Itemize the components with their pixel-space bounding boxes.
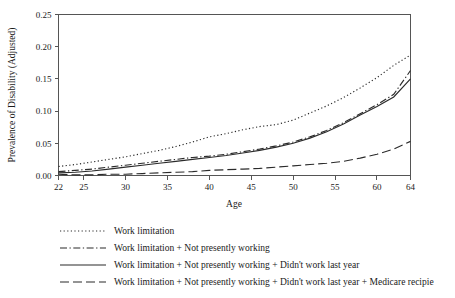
y-tick-label: 0.05 [36,139,52,149]
x-axis-title: Age [226,199,242,209]
legend-item: Work limitation + Not presently working [60,239,455,256]
x-tick-label: 50 [289,182,299,192]
chart-figure: 0.000.050.100.150.200.25 222530354045505… [0,0,455,298]
legend-label-not-presently-working: Work limitation + Not presently working [114,243,270,253]
x-tick-label: 45 [247,182,257,192]
series-line [59,71,411,172]
x-tick-label: 55 [331,182,341,192]
legend-label-work-limitation: Work limitation [114,226,174,236]
x-tick-label: 60 [372,182,382,192]
y-tick-label: 0.00 [36,171,52,181]
series-lines [59,55,411,175]
legend-line-sample-solid [60,259,106,271]
legend-line-sample-dash-dot [60,242,106,254]
legend-item: Work limitation + Not presently working … [60,273,455,290]
series-line [59,141,411,174]
plot-frame [59,15,411,176]
x-tick-label: 35 [163,182,173,192]
legend-line-sample-long-dash [60,276,106,288]
x-tick-label: 25 [79,182,89,192]
series-line [59,55,411,166]
y-tick-label: 0.15 [36,74,52,84]
y-tick-label: 0.25 [36,10,52,20]
legend-item: Work limitation + Not presently working … [60,256,455,273]
legend-line-sample-dotted [60,225,106,237]
x-tick-label: 64 [406,182,416,192]
y-axis-title: Prevalence of Disability (Adjusted) [7,28,18,163]
y-axis-ticks: 0.000.050.100.150.200.25 [36,10,59,181]
x-tick-label: 22 [54,182,63,192]
y-tick-label: 0.20 [36,42,52,52]
legend-label-medicare-recipient: Work limitation + Not presently working … [114,277,434,287]
x-tick-label: 30 [121,182,131,192]
x-tick-label: 40 [205,182,215,192]
chart-legend: Work limitation Work limitation + Not pr… [60,222,455,290]
legend-item: Work limitation [60,222,455,239]
legend-label-didnt-work-last-year: Work limitation + Not presently working … [114,260,359,270]
x-axis-ticks: 22253035404550556064 [54,176,416,192]
y-tick-label: 0.10 [36,106,52,116]
